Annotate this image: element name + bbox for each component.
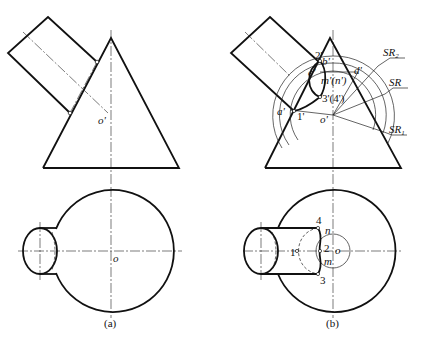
label-d-prime: d' [354, 64, 363, 76]
caption-a: (a) [104, 317, 117, 330]
label-o-prime: o' [98, 114, 107, 126]
intersection-point [68, 111, 72, 115]
label-1-prime: 1' [297, 110, 305, 122]
cylinder-outline [8, 17, 97, 113]
cylinder-axis [245, 32, 290, 76]
label-m: m [324, 255, 332, 267]
leader-sr2 [378, 58, 405, 66]
cylinder-axis [23, 32, 108, 113]
panel-a-front-view: o' [8, 17, 179, 185]
point-2 [318, 249, 321, 252]
label-m-prime-n-prime: m'(n') [321, 74, 347, 87]
label-c-prime: c' [308, 66, 316, 78]
caption-b: (b) [326, 317, 339, 330]
point-1 [295, 249, 298, 252]
drawing: o' o (a) [0, 0, 423, 345]
label-sr2: SR2 [383, 46, 399, 60]
point-4 [316, 226, 319, 229]
label-o-prime: o' [320, 113, 329, 125]
point-1-prime [292, 109, 295, 112]
label-n: n [325, 224, 331, 236]
figure-canvas: o' o (a) [0, 0, 423, 345]
panel-a-top-view: o (a) [18, 187, 182, 330]
label-2: 2 [324, 242, 330, 254]
label-sr: SR [389, 76, 402, 88]
panel-b-top-view: 4 n 2 1 o m 3 (b) [243, 187, 403, 330]
label-4: 4 [316, 214, 322, 226]
label-b-prime: b' [322, 55, 331, 67]
label-o: o [113, 252, 119, 264]
label-3-prime-4-prime: 3'(4') [322, 92, 345, 105]
label-o: o [335, 244, 341, 256]
label-a-prime: a' [277, 105, 286, 117]
leader-sr [385, 88, 408, 94]
intersection-point [95, 60, 99, 64]
label-1: 1 [290, 246, 296, 258]
cylinder-end-line [70, 62, 97, 113]
label-sr1: SR1 [389, 123, 405, 137]
cylinder-outline [231, 17, 319, 111]
panel-b-front-view: 2' b' c' d' m'(n') 3'(4') a' 1' o' SR2 S… [231, 17, 408, 185]
label-3: 3 [320, 274, 326, 286]
